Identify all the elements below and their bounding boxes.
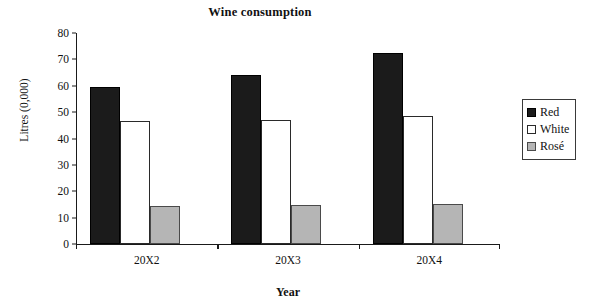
y-tick-label: 60 xyxy=(58,80,70,92)
legend-item: Red xyxy=(527,104,569,121)
bar-ros-20X2 xyxy=(150,206,180,244)
y-tick-label: 20 xyxy=(58,185,70,197)
legend-item: Rosé xyxy=(527,138,569,155)
x-axis-line xyxy=(76,244,500,245)
legend-label: White xyxy=(540,122,569,137)
bar-red-20X2 xyxy=(90,87,120,244)
y-tick-label: 10 xyxy=(58,212,70,224)
bar-ros-20X4 xyxy=(433,204,463,244)
bar-red-20X4 xyxy=(373,53,403,244)
y-tick-mark xyxy=(72,138,76,139)
x-tick-mark xyxy=(217,244,218,249)
y-tick-label: 0 xyxy=(63,238,69,250)
plot-area: 01020304050607080 20X220X320X4 xyxy=(76,33,500,244)
bar-red-20X3 xyxy=(231,75,261,244)
x-axis-title: Year xyxy=(76,285,500,300)
x-tick-mark xyxy=(359,244,360,249)
legend-label: Red xyxy=(540,105,559,120)
y-tick-label: 40 xyxy=(58,133,70,145)
x-category-label: 20X4 xyxy=(417,254,443,266)
y-tick-label: 30 xyxy=(58,159,70,171)
y-tick-mark xyxy=(72,112,76,113)
y-axis-title: Litres (0,000) xyxy=(18,50,30,170)
y-tick-label: 80 xyxy=(58,27,70,39)
y-tick-label: 50 xyxy=(58,106,70,118)
legend-swatch-icon xyxy=(527,108,536,117)
y-tick-mark xyxy=(72,59,76,60)
bar-white-20X3 xyxy=(261,120,291,244)
bar-ros-20X3 xyxy=(291,205,321,244)
y-tick-mark xyxy=(72,164,76,165)
x-category-label: 20X2 xyxy=(134,254,160,266)
chart-title: Wine consumption xyxy=(0,5,520,20)
y-tick-label: 70 xyxy=(58,53,70,65)
x-tick-mark xyxy=(76,244,77,249)
bar-white-20X2 xyxy=(120,121,150,244)
y-tick-mark xyxy=(72,85,76,86)
legend-swatch-icon xyxy=(527,125,536,134)
y-tick-mark xyxy=(72,217,76,218)
y-tick-mark xyxy=(72,33,76,34)
y-tick-mark xyxy=(72,191,76,192)
wine-consumption-chart: Wine consumption Litres (0,000) 01020304… xyxy=(0,0,599,308)
chart-legend: RedWhiteRosé xyxy=(522,99,576,160)
legend-label: Rosé xyxy=(540,139,564,154)
legend-swatch-icon xyxy=(527,142,536,151)
y-axis-line xyxy=(76,33,77,244)
x-tick-mark xyxy=(499,244,500,249)
x-category-label: 20X3 xyxy=(275,254,301,266)
bar-white-20X4 xyxy=(403,116,433,244)
legend-item: White xyxy=(527,121,569,138)
